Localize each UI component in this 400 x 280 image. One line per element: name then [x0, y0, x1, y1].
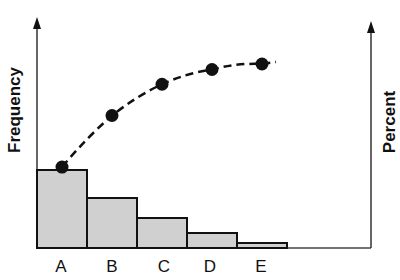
cumulative-percent-line — [62, 62, 276, 167]
bar-b — [87, 198, 137, 248]
category-label-c: C — [158, 257, 170, 277]
cumulative-point-b — [106, 109, 119, 122]
cumulative-point-c — [156, 78, 169, 91]
bar-c — [137, 218, 187, 248]
frequency-bars — [37, 170, 287, 248]
bar-a — [37, 170, 87, 248]
left-axis-arrow-icon — [33, 17, 41, 29]
category-label-d: D — [204, 257, 216, 277]
cumulative-point-a — [56, 161, 69, 174]
cumulative-points — [56, 58, 269, 174]
category-label-b: B — [106, 257, 117, 277]
cumulative-point-e — [256, 58, 269, 71]
cumulative-point-d — [206, 63, 219, 76]
pareto-chart — [0, 0, 400, 280]
category-label-a: A — [55, 257, 66, 277]
y-axis-label-frequency: Frequency — [5, 67, 25, 153]
y-axis-label-percent: Percent — [380, 91, 400, 153]
bar-e — [237, 243, 287, 248]
bar-d — [187, 233, 237, 248]
right-axis-arrow-icon — [367, 21, 375, 33]
category-label-e: E — [255, 257, 266, 277]
